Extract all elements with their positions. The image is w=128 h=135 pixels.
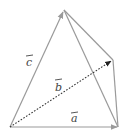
edge-apex-to-right-vertex	[64, 10, 113, 60]
tetrahedron-diagram: c b a	[0, 0, 128, 135]
edge-apex-to-a-end	[64, 10, 118, 127]
label-a: a	[71, 112, 78, 125]
label-c-text: c	[26, 56, 32, 69]
label-c: c	[26, 55, 33, 69]
label-b: b	[55, 79, 62, 94]
label-b-text: b	[55, 81, 62, 94]
label-a-text: a	[71, 112, 78, 125]
vector-c-arrow	[10, 12, 63, 127]
